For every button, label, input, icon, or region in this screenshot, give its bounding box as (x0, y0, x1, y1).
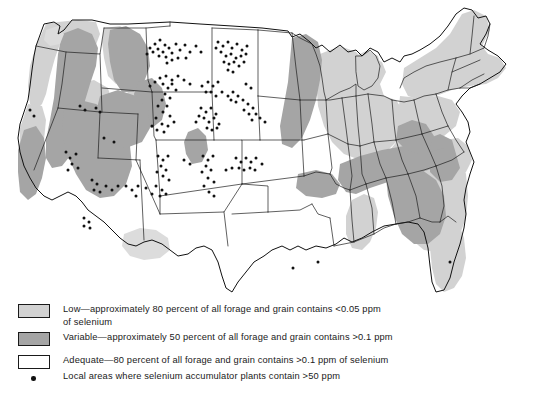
selenium-map-figure: Low—approximately 80 percent of all fora… (0, 0, 535, 394)
legend-item-adequate: Adequate—80 percent of all forage and gr… (18, 354, 388, 369)
legend-swatch-low-icon (18, 304, 50, 318)
map-legend: Low—approximately 80 percent of all fora… (18, 302, 518, 390)
legend-label-variable: Variable—approximately 50 percent of all… (63, 331, 393, 344)
legend-item-low: Low—approximately 80 percent of all fora… (18, 303, 381, 328)
legend-item-variable: Variable—approximately 50 percent of all… (18, 331, 393, 346)
legend-swatch-dot-icon (18, 371, 50, 385)
legend-item-local-accumulator: Local areas where selenium accumulator p… (18, 370, 340, 385)
legend-swatch-adequate-icon (18, 355, 50, 369)
united-states-map (0, 0, 535, 300)
legend-swatch-variable-icon (18, 332, 50, 346)
legend-label-local-accumulator: Local areas where selenium accumulator p… (63, 370, 340, 383)
map-area (0, 0, 535, 300)
legend-label-adequate: Adequate—80 percent of all forage and gr… (63, 354, 388, 367)
legend-label-low: Low—approximately 80 percent of all fora… (63, 303, 381, 328)
